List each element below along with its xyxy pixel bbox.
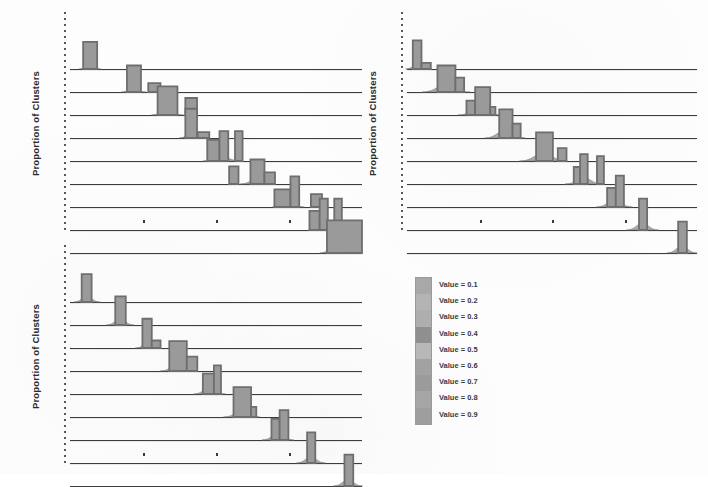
legend-label: Value = 0.7 bbox=[439, 374, 478, 390]
legend-swatch bbox=[416, 294, 431, 310]
panel-bottom-left-plot-area bbox=[70, 245, 362, 467]
ridge-baseline bbox=[407, 253, 697, 254]
legend-label: Value = 0.1 bbox=[439, 277, 478, 293]
x-axis-tick bbox=[143, 220, 145, 223]
panel-bottom-left: Proportion of Clusters bbox=[26, 245, 362, 467]
panel-top-left-ylabel: Proportion of Clusters bbox=[26, 12, 46, 234]
value-legend: Value = 0.1Value = 0.2Value = 0.3Value =… bbox=[415, 277, 478, 425]
legend-label: Value = 0.4 bbox=[439, 326, 478, 342]
legend-label: Value = 0.2 bbox=[439, 293, 478, 309]
panel-top-right-ylabel: Proportion of Clusters bbox=[363, 12, 383, 234]
legend-swatch-column bbox=[415, 277, 432, 425]
x-axis-tick bbox=[289, 220, 291, 223]
panel-top-left-y-axis bbox=[64, 12, 66, 234]
panel-top-left: Proportion of Clusters bbox=[26, 12, 362, 234]
legend-swatch bbox=[416, 359, 431, 375]
legend-swatch bbox=[416, 278, 431, 294]
x-axis-tick bbox=[289, 453, 291, 456]
x-axis-tick bbox=[143, 453, 145, 456]
legend-label: Value = 0.9 bbox=[439, 407, 478, 423]
legend-label: Value = 0.3 bbox=[439, 309, 478, 325]
x-axis-tick bbox=[552, 220, 554, 223]
legend-label-column: Value = 0.1Value = 0.2Value = 0.3Value =… bbox=[439, 277, 478, 425]
panel-top-right-plot-area bbox=[407, 12, 697, 234]
panel-bottom-left-x-axis bbox=[70, 453, 362, 463]
panel-bottom-left-ylabel: Proportion of Clusters bbox=[26, 245, 46, 467]
legend-label: Value = 0.5 bbox=[439, 342, 478, 358]
panel-top-left-x-axis bbox=[70, 220, 362, 230]
legend-swatch bbox=[416, 343, 431, 359]
legend-label: Value = 0.6 bbox=[439, 358, 478, 374]
panel-top-right-y-axis bbox=[401, 12, 403, 234]
panel-top-right-x-axis bbox=[407, 220, 697, 230]
legend-label: Value = 0.8 bbox=[439, 390, 478, 406]
legend-swatch bbox=[416, 310, 431, 326]
x-axis-tick bbox=[480, 220, 482, 223]
panel-top-left-plot-area bbox=[70, 12, 362, 234]
panel-top-right: Proportion of Clusters bbox=[363, 12, 697, 234]
legend-swatch bbox=[416, 391, 431, 407]
x-axis-tick bbox=[216, 453, 218, 456]
legend-swatch bbox=[416, 327, 431, 343]
x-axis-tick bbox=[625, 220, 627, 223]
panel-bottom-left-y-axis bbox=[64, 245, 66, 467]
x-axis-tick bbox=[216, 220, 218, 223]
legend-swatch bbox=[416, 408, 431, 424]
legend-swatch bbox=[416, 375, 431, 391]
